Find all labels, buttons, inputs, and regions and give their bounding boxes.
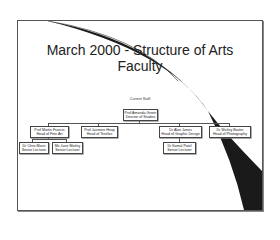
org-node-head-photography: Dr Shirley Baxter Head of Photography xyxy=(209,126,251,138)
node-role: Head of Textiles xyxy=(82,132,117,136)
node-role: Head of Photography xyxy=(210,132,250,136)
org-node-head-fine-art: Prof Martin Francis Head of Fine Art xyxy=(30,126,69,138)
org-node-head-textiles: Prof Jasmine Heap Head of Textiles xyxy=(81,126,118,138)
node-role: Senior Lecturer xyxy=(20,148,48,152)
slide-title-line2: Faculty xyxy=(18,58,262,74)
org-node-lecturer: Dr Chris Mann Senior Lecturer xyxy=(19,142,49,154)
connector xyxy=(32,139,66,140)
node-role: Senior Lecturer xyxy=(164,148,195,152)
presentation-slide: March 2000 - Structure of Arts Faculty C… xyxy=(17,20,263,211)
org-node-head-graphic-design: Dr Alan Jones Head of Graphic Design xyxy=(159,126,202,138)
connector xyxy=(48,123,230,124)
node-role: Senior Lecturer xyxy=(53,148,82,152)
chart-caption: Current Staff xyxy=(18,97,262,101)
org-node-lecturer: Ms Jane Morley Senior Lecturer xyxy=(52,142,83,154)
node-role: Head of Fine Art xyxy=(31,132,68,136)
org-node-lecturer: Dr Kamal Patel Senior Lecturer xyxy=(163,142,196,154)
org-node-director: Prof Amanda Green Director of Studies xyxy=(123,109,158,121)
slide-title-line1: March 2000 - Structure of Arts xyxy=(18,42,262,58)
node-role: Head of Graphic Design xyxy=(160,132,201,136)
node-role: Director of Studies xyxy=(124,115,157,119)
